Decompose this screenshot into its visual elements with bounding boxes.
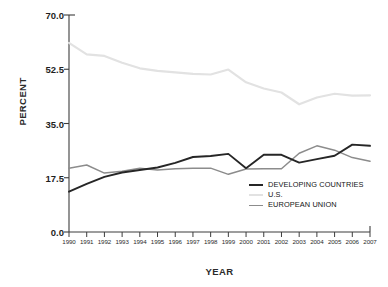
legend-item-label: DEVELOPING COUNTRIES: [268, 180, 364, 190]
x-axis-title: YEAR: [69, 266, 370, 277]
y-axis-tick-label: 52.5: [20, 64, 64, 75]
legend-swatch-icon: [249, 205, 263, 206]
y-axis-tick-label: 0.0: [20, 227, 64, 238]
series-line-european-union: [69, 146, 370, 175]
x-axis-tick-label: 1996: [169, 238, 182, 245]
series-line-u-s: [69, 43, 370, 104]
x-axis-tick-label: 2005: [328, 238, 341, 245]
x-axis-tick-label: 2003: [292, 238, 305, 245]
x-axis-tick-label: 1991: [80, 238, 93, 245]
y-axis-tick-labels: 70.052.535.017.50.0: [12, 0, 64, 287]
x-axis-tick-label: 2007: [363, 238, 376, 245]
x-axis-tick-label: 1999: [222, 238, 235, 245]
x-axis-tick-label: 1993: [115, 238, 128, 245]
x-axis-tick-label: 1997: [186, 238, 199, 245]
x-axis-tick-label: 1992: [98, 238, 111, 245]
x-axis-tick-label: 1990: [62, 238, 75, 245]
line-chart: PERCENT 70.052.535.017.50.0 199019911992…: [0, 0, 388, 287]
x-axis-tick-label: 2006: [346, 238, 359, 245]
x-axis-tick-label: 1998: [204, 238, 217, 245]
legend-item-label: U.S.: [268, 190, 283, 200]
x-axis-tick-label: 2002: [275, 238, 288, 245]
legend-swatch-icon: [249, 184, 263, 186]
legend-item: U.S.: [249, 190, 364, 200]
chart-legend: DEVELOPING COUNTRIESU.S.EUROPEAN UNION: [249, 180, 364, 210]
x-axis-tick-label: 1994: [133, 238, 146, 245]
legend-swatch-icon: [249, 194, 263, 196]
y-axis-tick-label: 70.0: [20, 10, 64, 21]
legend-item-label: EUROPEAN UNION: [268, 200, 337, 210]
y-axis-tick-label: 35.0: [20, 118, 64, 129]
x-axis-tick-label: 2004: [310, 238, 323, 245]
x-axis-tick-label: 2001: [257, 238, 270, 245]
y-axis-tick-label: 17.5: [20, 172, 64, 183]
legend-item: DEVELOPING COUNTRIES: [249, 180, 364, 190]
x-axis-tick-label: 1995: [151, 238, 164, 245]
x-axis-tick-label: 2000: [239, 238, 252, 245]
legend-item: EUROPEAN UNION: [249, 200, 364, 210]
